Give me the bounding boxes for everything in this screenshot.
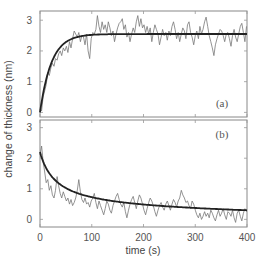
panel-a-y-tick-label: 1: [26, 76, 32, 87]
panel-a-y-tick-label: 2: [26, 45, 32, 56]
panel-b-y-tick-label: 1: [26, 183, 32, 194]
y-axis-label: change of thickness (nm): [2, 60, 14, 177]
panel-b-data-line: [40, 146, 247, 222]
panel-b-y-tick-label: 3: [26, 122, 32, 133]
x-tick-label: 400: [239, 232, 256, 243]
x-tick-label: 0: [37, 232, 43, 243]
panel-a-y-tick-label: 0: [26, 107, 32, 118]
panel-b-y-tick-label: 0: [26, 214, 32, 225]
x-tick-label: 300: [187, 232, 204, 243]
panel-b-y-tick-label: 2: [26, 153, 32, 164]
chart: 0123 (a) 0123 (b) 0100200300400 time (s)…: [0, 0, 268, 265]
panel-b-fit-line: [40, 152, 247, 210]
x-tick-label: 100: [83, 232, 100, 243]
x-axis-label: time (s): [126, 244, 161, 256]
panel-a-y-ticks: 0123: [26, 15, 247, 118]
panel-b: 0123 (b): [26, 120, 247, 227]
panel-a-y-tick-label: 3: [26, 15, 32, 26]
panel-b-label: (b): [216, 128, 229, 141]
x-tick-label: 200: [135, 232, 152, 243]
panel-a-label: (a): [216, 97, 229, 110]
panel-a: 0123 (a): [26, 11, 247, 118]
x-tick-labels: 0100200300400: [37, 232, 256, 243]
